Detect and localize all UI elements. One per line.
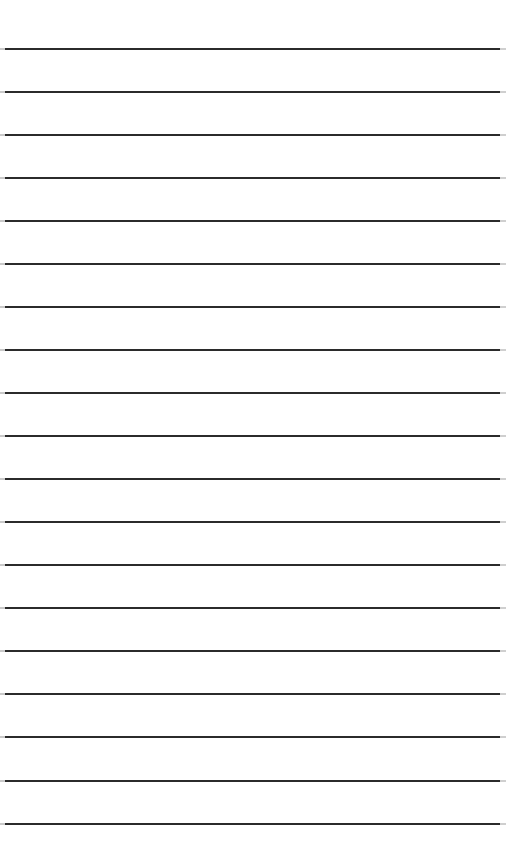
ruled-line-stroke (5, 306, 500, 309)
ruled-line-right-cap (500, 349, 506, 351)
ruled-line[interactable] (0, 775, 506, 787)
ruled-line[interactable] (0, 559, 506, 571)
ruled-line[interactable] (0, 215, 506, 227)
ruled-line[interactable] (0, 301, 506, 313)
ruled-line-stroke (5, 521, 500, 524)
ruled-line[interactable] (0, 258, 506, 270)
ruled-line-right-cap (500, 564, 506, 566)
ruled-line[interactable] (0, 430, 506, 442)
ruled-line-right-cap (500, 736, 506, 738)
ruled-line-right-cap (500, 478, 506, 480)
ruled-line[interactable] (0, 516, 506, 528)
ruled-line-stroke (5, 478, 500, 481)
ruled-line-stroke (5, 177, 500, 180)
ruled-line-stroke (5, 736, 500, 739)
ruled-line-right-cap (500, 650, 506, 652)
ruled-line-stroke (5, 134, 500, 137)
ruled-line-stroke (5, 607, 500, 610)
ruled-line-stroke (5, 263, 500, 266)
ruled-line-right-cap (500, 91, 506, 93)
ruled-line-stroke (5, 91, 500, 94)
ruled-line-right-cap (500, 823, 506, 825)
ruled-line-right-cap (500, 607, 506, 609)
ruled-line[interactable] (0, 172, 506, 184)
ruled-line[interactable] (0, 602, 506, 614)
ruled-line[interactable] (0, 688, 506, 700)
ruled-line[interactable] (0, 43, 506, 55)
ruled-line-right-cap (500, 392, 506, 394)
ruled-line-stroke (5, 48, 500, 51)
ruled-line-stroke (5, 564, 500, 567)
ruled-line-right-cap (500, 780, 506, 782)
ruled-line-right-cap (500, 693, 506, 695)
ruled-line[interactable] (0, 731, 506, 743)
ruled-line-stroke (5, 392, 500, 395)
ruled-line-stroke (5, 435, 500, 438)
ruled-line-stroke (5, 823, 500, 826)
ruled-line-stroke (5, 220, 500, 223)
ruled-line-right-cap (500, 521, 506, 523)
ruled-line-right-cap (500, 177, 506, 179)
ruled-line-right-cap (500, 306, 506, 308)
ruled-line-right-cap (500, 220, 506, 222)
ruled-line[interactable] (0, 344, 506, 356)
bottom-margin (0, 824, 506, 867)
ruled-line-stroke (5, 349, 500, 352)
ruled-line[interactable] (0, 818, 506, 830)
ruled-line-stroke (5, 780, 500, 783)
ruled-line[interactable] (0, 645, 506, 657)
ruled-line[interactable] (0, 473, 506, 485)
ruled-line-stroke (5, 650, 500, 653)
ruled-line[interactable] (0, 86, 506, 98)
ruled-line[interactable] (0, 387, 506, 399)
ruled-line-stroke (5, 693, 500, 696)
ruled-line-right-cap (500, 48, 506, 50)
top-margin (0, 0, 506, 49)
ruled-line-right-cap (500, 435, 506, 437)
ruled-line-right-cap (500, 263, 506, 265)
ruled-paper-page (0, 0, 506, 867)
ruled-line-right-cap (500, 134, 506, 136)
ruled-line[interactable] (0, 129, 506, 141)
